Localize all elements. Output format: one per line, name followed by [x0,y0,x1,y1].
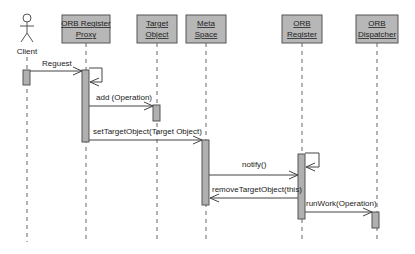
svg-text:Meta: Meta [197,19,215,28]
svg-text:Reguest: Reguest [42,59,73,68]
actor-label: Client [17,47,38,56]
svg-text:add (Operation): add (Operation) [96,93,152,102]
object-meta-space: Meta Space [186,15,226,43]
message-notify: notify() [209,160,298,175]
activation-orb-dispatcher [372,212,379,228]
svg-text:ORB: ORB [293,19,310,28]
object-orb-register: ORB Register [282,15,322,43]
activation-meta-space [202,140,209,205]
activation-client [23,70,30,85]
svg-text:setTargetObject(Target Object): setTargetObject(Target Object) [93,127,202,136]
message-run-work: runWork(Operation) [305,199,377,212]
svg-text:Object: Object [145,30,169,39]
svg-text:Register: Register [287,30,317,39]
sequence-diagram: Client ORB Register Proxy Target Object … [0,0,415,254]
svg-text:Target: Target [146,19,169,28]
message-request: Reguest [30,59,82,71]
actor-head-icon [23,14,31,22]
object-orb-register-proxy: ORB Register Proxy [61,15,111,43]
svg-text:notify(): notify() [242,160,267,169]
svg-text:Proxy: Proxy [76,30,96,39]
svg-text:removeTargetObject(this): removeTargetObject(this) [212,185,302,194]
activation-target-object [153,105,160,121]
object-orb-dispatcher: ORB Dispatcher [356,15,398,43]
activation-proxy [82,70,89,142]
svg-text:ORB: ORB [368,19,385,28]
object-target-object: Target Object [137,15,177,43]
actor-client: Client [17,14,38,56]
svg-text:ORB Register: ORB Register [61,19,111,28]
message-add-operation: add (Operation) [89,93,153,106]
self-call-orb-register [305,153,319,167]
self-call-proxy [89,68,102,82]
svg-text:runWork(Operation): runWork(Operation) [306,199,377,208]
message-remove-target-object: removeTargetObject(this) [210,185,302,198]
svg-text:Dispatcher: Dispatcher [358,30,397,39]
message-set-target-object: setTargetObject(Target Object) [89,127,202,140]
svg-text:Space: Space [195,30,218,39]
